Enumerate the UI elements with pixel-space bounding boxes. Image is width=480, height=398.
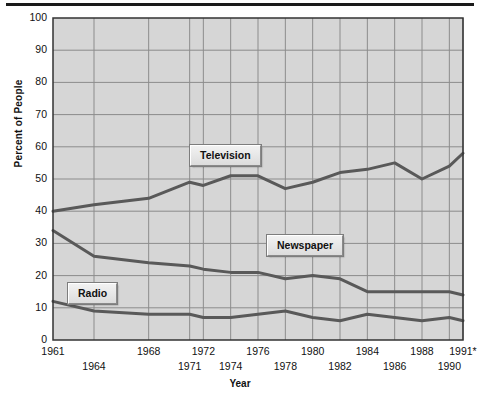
series-label-newspaper: Newspaper bbox=[267, 235, 343, 256]
plot-area bbox=[0, 0, 480, 398]
series-label-television: Television bbox=[190, 145, 261, 166]
series-label-radio: Radio bbox=[68, 283, 117, 304]
chart-figure: Percent of People Year 01020304050607080… bbox=[0, 0, 480, 398]
